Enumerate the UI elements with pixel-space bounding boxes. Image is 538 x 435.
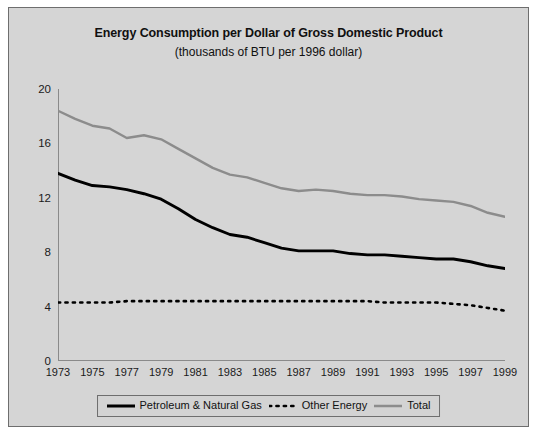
series-group	[58, 111, 505, 311]
legend-label: Petroleum & Natural Gas	[140, 399, 262, 412]
legend-swatch-icon	[269, 402, 297, 410]
legend-entry: Total	[374, 399, 430, 412]
y-axis-tick-label: 8	[21, 246, 51, 258]
series-line-total	[58, 111, 505, 217]
chart-subtitle: (thousands of BTU per 1996 dollar)	[9, 45, 528, 60]
y-axis-tick-labels: 048121620	[17, 89, 51, 361]
y-axis-tick-label: 20	[21, 83, 51, 95]
axes-group	[58, 89, 505, 361]
chart-figure: Energy Consumption per Dollar of Gross D…	[8, 7, 529, 427]
legend-entry: Petroleum & Natural Gas	[107, 399, 262, 412]
legend-swatch-icon	[107, 402, 135, 410]
x-axis-tick-label: 1999	[483, 365, 527, 379]
chart-title-block: Energy Consumption per Dollar of Gross D…	[9, 26, 528, 60]
legend-entry: Other Energy	[269, 399, 367, 412]
legend-swatch-icon	[374, 402, 402, 410]
y-axis-tick-label: 4	[21, 301, 51, 313]
legend-label: Other Energy	[302, 399, 367, 412]
page-title: Energy Consumption per Dollar of Gross D…	[9, 26, 528, 41]
chart-legend: Petroleum & Natural GasOther EnergyTotal	[97, 395, 441, 417]
plot-area	[58, 89, 505, 361]
x-axis-tick-labels: 1973197519771979198119831985198719891991…	[58, 365, 505, 381]
y-axis-tick-label: 12	[21, 192, 51, 204]
plot-svg	[58, 89, 505, 361]
legend-label: Total	[407, 399, 430, 412]
series-line-other-energy	[58, 301, 505, 311]
y-axis-tick-label: 16	[21, 137, 51, 149]
